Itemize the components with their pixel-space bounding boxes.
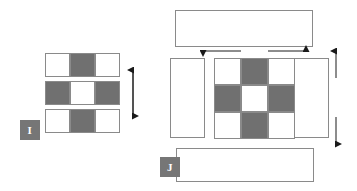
panel-j-grid-cell-r1c2 <box>241 58 268 85</box>
panel-j-up-arrow <box>330 46 342 80</box>
panel-j-right-rect <box>294 58 329 138</box>
figure-canvas: I <box>0 0 357 191</box>
panel-j-label-chip: J <box>160 157 180 177</box>
panel-j-grid-cell-r2c2 <box>241 85 268 112</box>
panel-j-left-rect <box>170 58 205 138</box>
panel-j-grid-cell-r3c1 <box>214 112 241 139</box>
panel-j-grid-cell-r1c1 <box>214 58 241 85</box>
panel-j-down-arrow <box>330 115 342 149</box>
panel-j-grid-cell-r2c1 <box>214 85 241 112</box>
panel-j-grid-cell-r3c3 <box>268 112 295 139</box>
panel-j-label-text: J <box>167 161 173 173</box>
panel-j-top-rect <box>175 10 313 47</box>
panel-j-grid-cell-r3c2 <box>241 112 268 139</box>
panel-j-grid-cell-r1c3 <box>268 58 295 85</box>
panel-j-grid-cell-r2c3 <box>268 85 295 112</box>
panel-j-right-arrow <box>266 45 310 57</box>
panel-j-bottom-rect <box>176 148 314 182</box>
panel-j-left-arrow <box>199 45 243 57</box>
panel-j-group: J <box>0 0 357 191</box>
